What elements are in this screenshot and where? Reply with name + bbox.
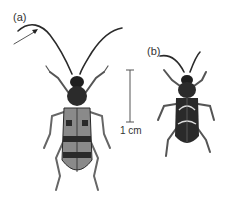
beetle-illustration [0, 0, 243, 208]
panel-label-a: (a) [13, 12, 26, 23]
panel-label-b: (b) [147, 46, 160, 57]
scale-bar [126, 70, 134, 122]
scale-bar-label: 1 cm [120, 125, 142, 136]
beetle-figure: (a) (b) 1 cm [0, 0, 243, 208]
